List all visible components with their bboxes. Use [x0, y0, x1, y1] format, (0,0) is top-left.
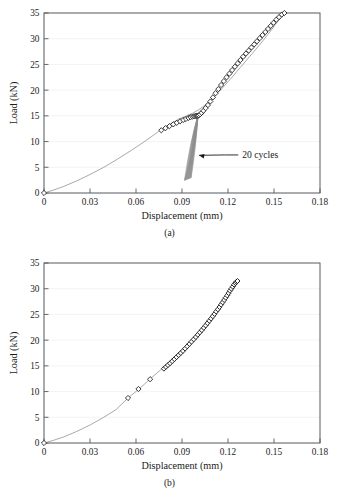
gridlines: [44, 39, 320, 168]
y-tick-label-20: 20: [30, 336, 40, 346]
y-tick-labels: 05101520253035: [30, 258, 40, 448]
x-tick-label-0.15: 0.15: [266, 197, 283, 207]
x-tick-label-0.12: 0.12: [220, 197, 237, 207]
x-tick-label-0.12: 0.12: [220, 447, 237, 457]
chart-panel-b: 0510152025303500.030.060.090.120.150.18D…: [0, 250, 339, 501]
series-diamond-markers-pre-cycling: [41, 113, 200, 195]
x-tick-label-0: 0: [42, 447, 47, 457]
y-tick-label-15: 15: [30, 361, 40, 371]
y-tick-label-25: 25: [30, 60, 40, 70]
series-diamond-markers-dense: [161, 279, 240, 372]
x-tick-label-0: 0: [42, 197, 47, 207]
x-tick-label-0.15: 0.15: [266, 447, 283, 457]
y-tick-label-30: 30: [30, 34, 40, 44]
y-tick-label-0: 0: [35, 438, 40, 448]
y-tick-label-5: 5: [35, 163, 40, 173]
annotation-group: 20 cycles: [199, 149, 278, 160]
chart-svg-b: 0510152025303500.030.060.090.120.150.18D…: [0, 250, 339, 501]
x-axis-title: Displacement (mm): [141, 210, 222, 222]
x-tick-labels: 00.030.060.090.120.150.18: [42, 447, 329, 457]
data-point-marker: [41, 440, 46, 445]
x-tick-label-0.03: 0.03: [82, 447, 99, 457]
x-tick-label-0.09: 0.09: [174, 197, 191, 207]
series-monotonic-loading-curve: [44, 13, 285, 193]
y-tick-label-10: 10: [30, 387, 40, 397]
x-tick-labels: 00.030.060.090.120.150.18: [42, 197, 329, 207]
figure-container: 0510152025303500.030.060.090.120.150.18D…: [0, 0, 339, 501]
panel-caption-a: (a): [0, 228, 339, 238]
chart-panel-a: 0510152025303500.030.060.090.120.150.18D…: [0, 0, 339, 253]
x-tick-label-0.18: 0.18: [312, 447, 329, 457]
plot-frame: [44, 13, 320, 193]
annotation-label: 20 cycles: [242, 149, 278, 160]
y-tick-label-20: 20: [30, 86, 40, 96]
y-axis-title: Load (kN): [8, 332, 20, 375]
x-axis-title: Displacement (mm): [141, 460, 222, 472]
panel-caption-b: (b): [0, 478, 339, 488]
tick-marks: [44, 13, 320, 193]
series-cyclic-hysteresis-bundle: [184, 116, 198, 181]
x-tick-label-0.09: 0.09: [174, 447, 191, 457]
x-tick-label-0.18: 0.18: [312, 197, 329, 207]
chart-svg-a: 0510152025303500.030.060.090.120.150.18D…: [0, 0, 339, 253]
series-monotonic-loading-curve: [44, 281, 238, 443]
y-tick-label-15: 15: [30, 111, 40, 121]
x-tick-label-0.06: 0.06: [128, 447, 145, 457]
y-tick-label-0: 0: [35, 188, 40, 198]
y-tick-label-10: 10: [30, 137, 40, 147]
x-tick-label-0.03: 0.03: [82, 197, 99, 207]
y-tick-label-30: 30: [30, 284, 40, 294]
x-tick-label-0.06: 0.06: [128, 197, 145, 207]
y-tick-label-35: 35: [30, 8, 40, 18]
series-diamond-markers-sparse: [41, 377, 152, 446]
y-axis-title: Load (kN): [8, 82, 20, 125]
y-tick-labels: 05101520253035: [30, 8, 40, 198]
annotation-arrowhead: [199, 154, 205, 159]
y-tick-label-5: 5: [35, 413, 40, 423]
data-point-marker: [41, 190, 46, 195]
y-tick-label-25: 25: [30, 310, 40, 320]
y-tick-label-35: 35: [30, 258, 40, 268]
